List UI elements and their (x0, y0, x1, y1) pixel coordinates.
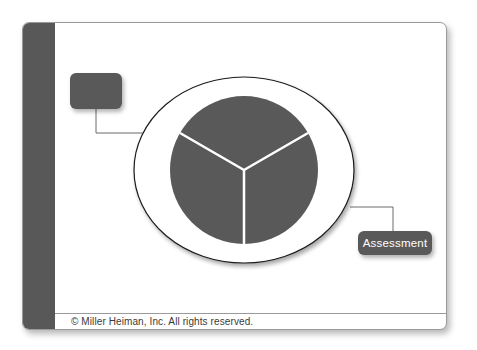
cycle-diagram (0, 0, 477, 350)
top-left-box (70, 73, 122, 109)
connector-line-assessment (350, 207, 393, 231)
assessment-box: Assessment (358, 231, 432, 255)
connector-line-top (96, 109, 143, 133)
slide-stage: © Miller Heiman, Inc. All rights reserve… (0, 0, 477, 350)
